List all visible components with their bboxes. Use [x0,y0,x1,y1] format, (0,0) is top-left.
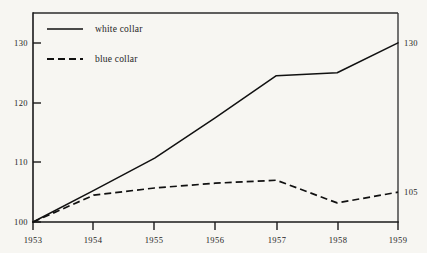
x-tick-label-1959: 1959 [389,235,408,245]
x-tick-label-1958: 1958 [329,235,348,245]
legend-label-blue-collar: blue collar [95,54,138,64]
end-label-white-collar: 130 [404,38,418,48]
x-tick-label-1953: 1953 [24,235,43,245]
chart-background [0,0,427,253]
y-tick-label-110: 110 [14,157,28,167]
y-tick-label-120: 120 [14,98,28,108]
y-tick-label-130: 130 [14,38,28,48]
x-tick-label-1956: 1956 [206,235,225,245]
line-chart: 130 120 110 100 1953 1954 1955 1956 1957… [0,0,427,253]
legend-label-white-collar: white collar [95,24,143,34]
end-label-blue-collar: 105 [404,187,418,197]
chart-container: 130 120 110 100 1953 1954 1955 1956 1957… [0,0,427,253]
x-tick-label-1954: 1954 [84,235,103,245]
x-tick-label-1957: 1957 [268,235,287,245]
y-tick-label-100: 100 [14,217,28,227]
x-tick-label-1955: 1955 [145,235,164,245]
